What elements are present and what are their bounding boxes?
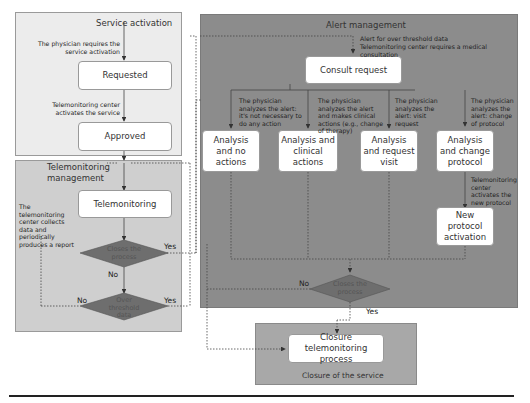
alert-management-title: Alert management	[326, 20, 406, 30]
telemonitoring-management-title: Telemonitoring management	[47, 162, 110, 184]
decision-close-process-1-label: Closes the process	[104, 246, 144, 261]
note-no-action: The physician analyzes the alert: it's n…	[239, 97, 305, 127]
node-new-protocol-activation[interactable]: New protocol activation	[436, 207, 494, 246]
node-approved[interactable]: Approved	[78, 122, 172, 151]
note-clinical-actions: The physician analyzes the alert and mak…	[318, 97, 386, 135]
node-consult-request[interactable]: Consult request	[305, 56, 402, 84]
note-visit-request: The physician analyzes the alert: visit …	[395, 97, 443, 127]
branch-yes-threshold: Yes	[164, 296, 176, 305]
note-new-protocol: Telemonitoring center activates the new …	[471, 176, 517, 206]
node-analysis-change-protocol[interactable]: Analysis and change protocol	[436, 130, 494, 172]
closure-of-service-title: Closure of the service	[302, 371, 384, 380]
note-center-collects: The telemonitoring center collects data …	[19, 203, 75, 249]
decision-over-threshold-label: Over threshold data	[104, 297, 144, 320]
node-requested[interactable]: Requested	[78, 61, 172, 90]
node-telemonitoring[interactable]: Telemonitoring	[78, 190, 172, 218]
note-change-protocol: The physician analyzes the alert: change…	[471, 97, 517, 127]
note-center-requires-consult: Telemonitoring center requires a medical…	[360, 43, 525, 58]
note-alert-over-threshold: Alert for over threshold data	[360, 35, 520, 43]
branch-no-close-2: No	[299, 279, 309, 288]
node-analysis-request-visit[interactable]: Analysis and request visit	[360, 130, 418, 172]
node-closure-process[interactable]: Closure telemonitoring process	[288, 334, 384, 363]
bottom-rule	[9, 395, 514, 397]
branch-no-close-1: No	[108, 270, 118, 279]
note-physician-requires: The physician requires the service activ…	[30, 40, 120, 55]
branch-yes-close-2: Yes	[366, 307, 378, 316]
note-center-activates: Telemonitoring center activates the serv…	[30, 101, 120, 116]
decision-close-process-2-label: Closes the process	[330, 281, 370, 296]
node-analysis-no-actions[interactable]: Analysis and no actions	[202, 130, 260, 172]
branch-yes-close-1: Yes	[164, 242, 176, 251]
branch-no-threshold: No	[77, 296, 87, 305]
node-analysis-clinical-actions[interactable]: Analysis and clinical actions	[278, 130, 338, 172]
service-activation-title: Service activation	[96, 18, 172, 28]
